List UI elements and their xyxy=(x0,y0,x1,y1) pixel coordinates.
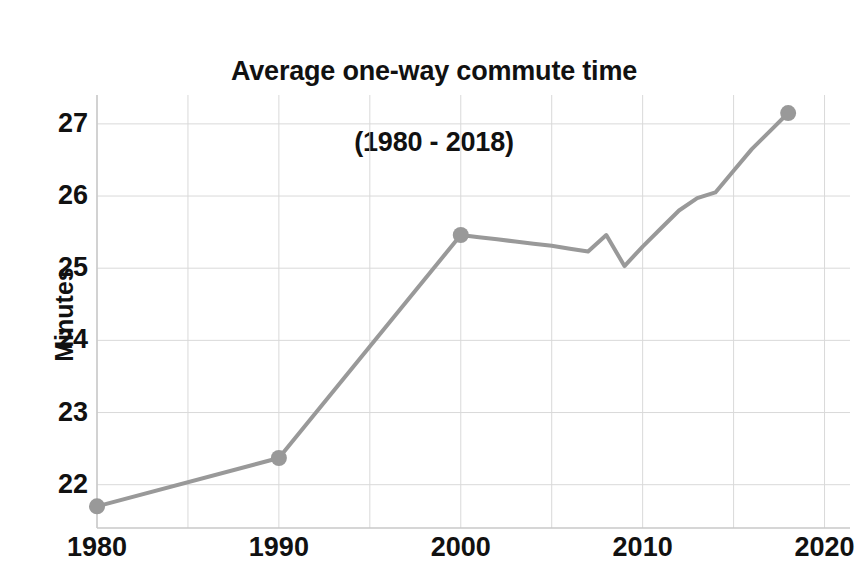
data-point-marker xyxy=(453,227,469,243)
chart-container: Average one-way commute time (1980 - 201… xyxy=(0,0,868,583)
data-point-marker xyxy=(89,498,105,514)
data-point-marker xyxy=(271,450,287,466)
axis-lines xyxy=(97,95,850,528)
data-point-markers xyxy=(89,105,796,514)
plot-area xyxy=(0,0,868,583)
grid-lines xyxy=(97,95,850,528)
data-line-series-1 xyxy=(97,113,788,506)
data-point-marker xyxy=(780,105,796,121)
